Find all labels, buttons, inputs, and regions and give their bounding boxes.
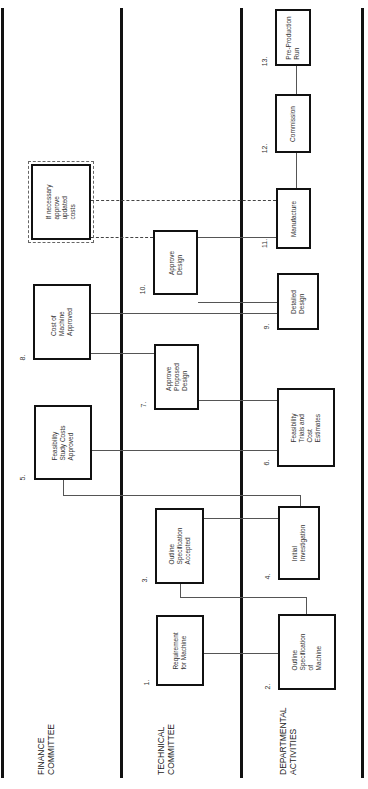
step-number: 6.: [263, 460, 270, 466]
box-text: Pre-Production Run: [285, 16, 301, 59]
box-text: Cost of Machine Approved: [50, 308, 74, 336]
lane-divider: [120, 8, 123, 778]
step-box-9: Detailed Design: [277, 273, 319, 330]
step-number: 1.: [143, 680, 150, 686]
lane-label-technical: TECHNICAL COMMITTEE: [157, 724, 176, 775]
step-box-6: Feasibility Trials and Cost Estimates: [277, 388, 335, 467]
step-box-3: Outline Specification Accepted: [155, 508, 204, 584]
box-text: Outline Specification Accepted: [168, 528, 192, 565]
box-text: Requirement for Machine: [172, 632, 188, 669]
step-box-1: Requirement for Machine: [156, 615, 204, 686]
lane-divider: [1, 8, 4, 778]
lane-label-departmental: DEPARTMENTAL ACTIVITIES: [279, 707, 298, 775]
box-text: Commission: [289, 106, 297, 142]
connector: [296, 153, 297, 188]
connector: [91, 313, 277, 314]
step-box-2: Outline Specification of Machine: [278, 614, 336, 690]
connector: [91, 353, 154, 354]
box-text: Manufacture: [290, 200, 298, 236]
connector: [296, 66, 297, 94]
step-box-7: Approve Proposed Design: [154, 344, 199, 410]
step-number: 9.: [263, 324, 270, 330]
step-number: 8.: [19, 355, 26, 361]
lane-divider: [361, 8, 364, 778]
connector: [92, 450, 277, 451]
box-text: Initial Investigation: [291, 525, 307, 562]
step-box-8: Cost of Machine Approved: [33, 284, 91, 360]
step-number: 4.: [264, 574, 271, 580]
box-text: Detailed Design: [290, 290, 306, 314]
connector: [199, 400, 277, 401]
step-box-13: Pre-Production Run: [275, 9, 311, 66]
step-box-11: Manufacture: [276, 188, 311, 249]
dashed-connector: [91, 237, 153, 238]
swimlane-diagram: FINANCE COMMITTEE TECHNICAL COMMITTEE DE…: [0, 0, 368, 789]
connector: [306, 597, 307, 614]
box-text: Feasibility Trials and Cost Estimates: [290, 413, 322, 442]
connector: [198, 302, 277, 303]
connector: [300, 495, 301, 506]
connector: [180, 597, 306, 598]
box-text: If necessary approve updated costs: [45, 184, 77, 219]
lane-label-finance: FINANCE COMMITTEE: [37, 724, 56, 775]
step-number: 10.: [139, 285, 146, 295]
conditional-approve-costs-box: If necessary approve updated costs: [31, 164, 91, 240]
connector: [204, 653, 278, 654]
step-box-4: Initial Investigation: [278, 506, 320, 580]
step-box-10: Approve Design: [153, 230, 198, 295]
step-number: 13.: [261, 57, 268, 67]
step-box-12: Commission: [275, 94, 311, 153]
step-number: 7.: [140, 402, 147, 408]
box-text: Approve Design: [168, 250, 184, 274]
step-number: 2.: [264, 684, 271, 690]
step-number: 3.: [141, 577, 148, 583]
dashed-connector: [91, 200, 276, 201]
connector: [204, 518, 278, 519]
step-number: 12.: [261, 144, 268, 154]
connector: [63, 495, 300, 496]
box-text: Feasibility Study Costs Approved: [51, 425, 75, 460]
step-number: 11.: [261, 239, 268, 248]
step-box-5: Feasibility Study Costs Approved: [34, 405, 92, 480]
step-number: 5.: [19, 475, 26, 481]
connector: [198, 237, 276, 238]
box-text: Outline Specification of Machine: [291, 634, 323, 671]
connector: [180, 584, 181, 597]
lane-divider: [240, 8, 243, 778]
connector: [63, 480, 64, 495]
box-text: Approve Proposed Design: [165, 363, 189, 391]
